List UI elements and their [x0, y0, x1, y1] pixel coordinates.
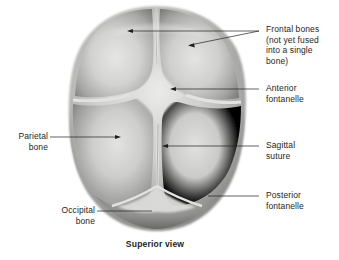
figure-caption: Superior view [0, 239, 310, 249]
infant-skull-figure: Frontal bones (not yet fused into a sing… [0, 0, 339, 260]
label-anterior-fontanelle: Anterior fontanelle [266, 83, 304, 104]
label-occipital-bone: Occipital bone [42, 205, 95, 226]
label-sagittal-suture: Sagittal suture [266, 140, 295, 161]
frontal-bone-left [75, 9, 153, 97]
label-posterior-fontanelle: Posterior fontanelle [266, 190, 304, 211]
label-frontal-bones: Frontal bones (not yet fused into a sing… [266, 24, 319, 66]
parietal-bone-right [162, 102, 241, 206]
label-parietal-bone: Parietal bone [0, 131, 48, 152]
parietal-bone-left [73, 98, 154, 206]
